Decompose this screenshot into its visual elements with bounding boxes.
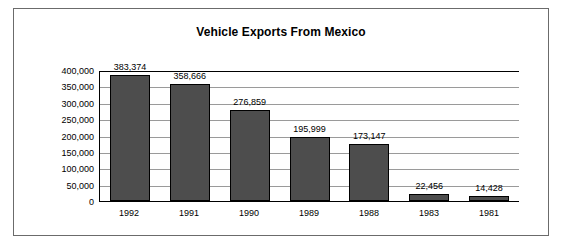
bar[interactable]: [469, 196, 509, 201]
y-tick-label: 250,000: [34, 115, 94, 125]
y-tick-label: 400,000: [34, 66, 94, 76]
bar-slot: 14,428: [459, 71, 519, 201]
bar-value-label: 358,666: [174, 71, 207, 81]
y-tick-label: 50,000: [34, 181, 94, 191]
bar[interactable]: [110, 75, 150, 201]
x-tick-label: 1992: [99, 208, 159, 222]
x-axis-labels: 1992199119901989198819831981: [99, 208, 519, 222]
bar-slot: 173,147: [339, 71, 399, 201]
bar-value-label: 276,859: [233, 97, 266, 107]
y-tick-label: 200,000: [34, 132, 94, 142]
x-tick-label: 1991: [159, 208, 219, 222]
x-tick-label: 1981: [459, 208, 519, 222]
chart-title: Vehicle Exports From Mexico: [14, 25, 548, 39]
x-tick-label: 1988: [339, 208, 399, 222]
y-tick-label: 0: [34, 197, 94, 207]
y-axis-labels: 050,000100,000150,000200,000250,000300,0…: [30, 71, 94, 202]
x-tick-label: 1989: [279, 208, 339, 222]
bar-slot: 276,859: [220, 71, 280, 201]
bar[interactable]: [230, 110, 270, 201]
y-tick-label: 300,000: [34, 99, 94, 109]
bar-value-label: 195,999: [293, 124, 326, 134]
y-tick-label: 150,000: [34, 148, 94, 158]
x-tick-label: 1990: [219, 208, 279, 222]
bar-slot: 358,666: [160, 71, 220, 201]
bar[interactable]: [290, 137, 330, 201]
y-tick-label: 100,000: [34, 164, 94, 174]
chart-frame: Vehicle Exports From Mexico 050,000100,0…: [13, 8, 549, 236]
y-tick-label: 350,000: [34, 82, 94, 92]
bar[interactable]: [170, 84, 210, 201]
bar-value-label: 173,147: [353, 131, 386, 141]
x-tick-label: 1983: [399, 208, 459, 222]
bar[interactable]: [349, 144, 389, 201]
bar-value-label: 14,428: [475, 183, 503, 193]
bar[interactable]: [409, 194, 449, 201]
bar-slot: 22,456: [399, 71, 459, 201]
plot-area: 383,374358,666276,859195,999173,14722,45…: [99, 71, 519, 202]
bar-value-label: 22,456: [415, 181, 443, 191]
bar-slot: 195,999: [280, 71, 340, 201]
bar-value-label: 383,374: [114, 62, 147, 72]
bar-series: 383,374358,666276,859195,999173,14722,45…: [100, 71, 519, 201]
bar-slot: 383,374: [100, 71, 160, 201]
